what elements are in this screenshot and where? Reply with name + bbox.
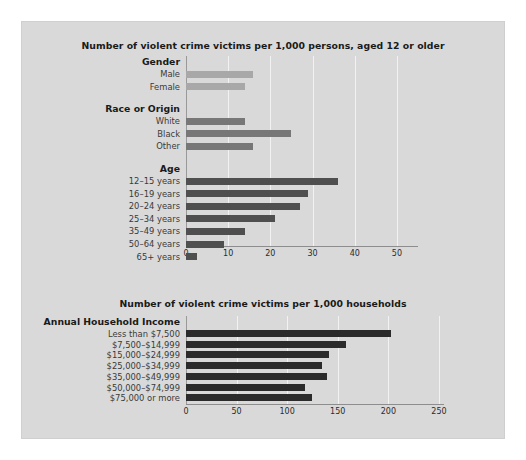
- figure-page: Number of violent crime victims per 1,00…: [0, 0, 526, 460]
- category-label: Female: [22, 82, 180, 92]
- bar: [186, 330, 391, 337]
- category-label: Other: [22, 141, 180, 151]
- x-tick-label: 200: [381, 407, 396, 416]
- x-tick-label: 0: [183, 407, 188, 416]
- x-tick-label: 10: [223, 249, 233, 258]
- bar: [186, 118, 245, 125]
- x-tick-label: 50: [231, 407, 241, 416]
- gridline-50: [397, 56, 398, 246]
- gridline-40: [355, 56, 356, 246]
- category-label: $75,000 or more: [22, 393, 180, 403]
- category-label: White: [22, 116, 180, 126]
- top-chart-plot-area: 01020304050: [186, 56, 418, 288]
- category-label: $25,000–$34,999: [22, 361, 180, 371]
- group-heading: Race or Origin: [22, 103, 180, 114]
- top-chart-title: Number of violent crime victims per 1,00…: [22, 40, 504, 51]
- x-tick-label: 100: [280, 407, 295, 416]
- x-axis-line: [186, 404, 444, 405]
- category-label: 20–24 years: [22, 201, 180, 211]
- category-label: 16–19 years: [22, 189, 180, 199]
- bar: [186, 241, 224, 248]
- x-tick-label: 40: [350, 249, 360, 258]
- category-label: 65+ years: [22, 252, 180, 262]
- bar: [186, 351, 329, 358]
- category-label: $35,000–$49,999: [22, 372, 180, 382]
- x-tick-label: 50: [392, 249, 402, 258]
- x-tick-label: 20: [265, 249, 275, 258]
- group-heading: Annual Household Income: [22, 316, 180, 327]
- bar: [186, 203, 300, 210]
- bar: [186, 384, 305, 391]
- gridline-250: [439, 316, 440, 404]
- category-label: Male: [22, 69, 180, 79]
- category-label: 12–15 years: [22, 176, 180, 186]
- bar: [186, 362, 322, 369]
- category-label: Black: [22, 129, 180, 139]
- group-heading: Age: [22, 163, 180, 174]
- bar: [186, 228, 245, 235]
- category-label: 25–34 years: [22, 214, 180, 224]
- bar: [186, 83, 245, 90]
- bar: [186, 373, 327, 380]
- bar: [186, 341, 346, 348]
- bar: [186, 190, 308, 197]
- x-tick-label: 250: [431, 407, 446, 416]
- group-heading: Gender: [22, 56, 180, 67]
- bar: [186, 71, 253, 78]
- bar: [186, 215, 275, 222]
- category-label: 50–64 years: [22, 239, 180, 249]
- bar: [186, 130, 291, 137]
- x-tick-label: 30: [307, 249, 317, 258]
- category-label: Less than $7,500: [22, 329, 180, 339]
- bottom-chart-title: Number of violent crime victims per 1,00…: [22, 298, 504, 309]
- category-label: $7,500–$14,999: [22, 340, 180, 350]
- category-label: $15,000–$24,999: [22, 350, 180, 360]
- category-label: 35–49 years: [22, 226, 180, 236]
- figure-panel: Number of violent crime victims per 1,00…: [21, 21, 505, 439]
- gridline-30: [313, 56, 314, 246]
- bar: [186, 394, 312, 401]
- category-label: $50,000–$74,999: [22, 383, 180, 393]
- x-tick-label: 150: [330, 407, 345, 416]
- bar: [186, 253, 197, 260]
- bottom-chart: 050100150200250 Annual Household IncomeL…: [22, 316, 506, 438]
- bar: [186, 143, 253, 150]
- bar: [186, 178, 338, 185]
- top-chart: 01020304050 GenderMaleFemaleRace or Orig…: [22, 56, 506, 288]
